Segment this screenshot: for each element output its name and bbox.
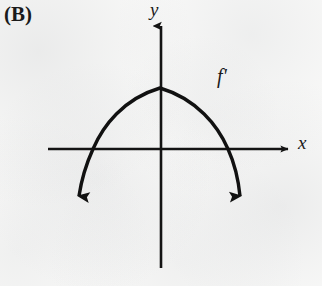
f-prime-curve xyxy=(79,88,240,196)
f-prime-curve-label: f' xyxy=(217,66,227,86)
panel-label: (B) xyxy=(4,4,32,25)
y-axis-label: y xyxy=(150,0,158,19)
figure-panel: (B) y x f' xyxy=(0,0,322,286)
coordinate-plot xyxy=(0,0,322,286)
x-axis-label: x xyxy=(298,133,306,152)
